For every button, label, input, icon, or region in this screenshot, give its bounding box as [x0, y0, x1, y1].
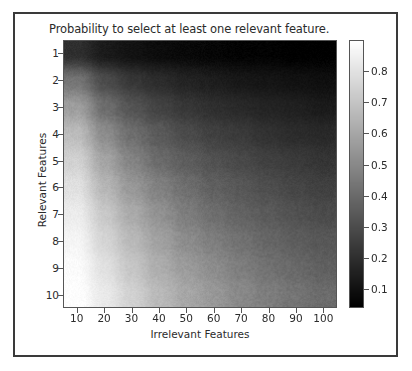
y-tick-mark	[58, 295, 63, 296]
x-axis-title: Irrelevant Features	[63, 328, 337, 340]
y-tick-mark	[58, 241, 63, 242]
y-tick-mark	[58, 187, 63, 188]
chart-title: Probability to select at least one relev…	[49, 22, 369, 36]
colorbar-tick-label: 0.4	[371, 190, 388, 202]
colorbar-tick-mark	[364, 165, 369, 166]
y-tick-mark	[58, 214, 63, 215]
y-axis-title: Relevant Features	[36, 100, 48, 260]
colorbar-tick-label: 0.2	[371, 252, 388, 264]
heatmap-image	[64, 41, 336, 307]
y-tick-label: 9	[19, 262, 59, 274]
colorbar-tick-label: 0.3	[371, 221, 388, 233]
colorbar-tick-mark	[364, 196, 369, 197]
y-tick-mark	[58, 161, 63, 162]
y-tick-mark	[58, 80, 63, 81]
colorbar-tick-mark	[364, 289, 369, 290]
y-tick-mark	[58, 134, 63, 135]
y-tick-mark	[58, 53, 63, 54]
colorbar-tick-mark	[364, 102, 369, 103]
colorbar-tick-mark	[364, 71, 369, 72]
y-tick-mark	[58, 268, 63, 269]
colorbar-tick-label: 0.8	[371, 65, 388, 77]
y-tick-mark	[58, 107, 63, 108]
heatmap-axes[interactable]	[63, 40, 337, 308]
colorbar-tick-label: 0.5	[371, 159, 388, 171]
colorbar-tick-label: 0.7	[371, 96, 388, 108]
y-tick-label: 2	[19, 74, 59, 86]
y-tick-label: 10	[19, 289, 59, 301]
colorbar[interactable]	[349, 40, 364, 308]
figure-frame: Probability to select at least one relev…	[13, 12, 398, 357]
x-tick-label: 100	[306, 312, 340, 324]
colorbar-tick-label: 0.6	[371, 127, 388, 139]
colorbar-tick-mark	[364, 227, 369, 228]
colorbar-gradient	[350, 41, 363, 307]
colorbar-tick-label: 0.1	[371, 283, 388, 295]
colorbar-tick-mark	[364, 133, 369, 134]
colorbar-tick-mark	[364, 258, 369, 259]
y-tick-label: 1	[19, 47, 59, 59]
